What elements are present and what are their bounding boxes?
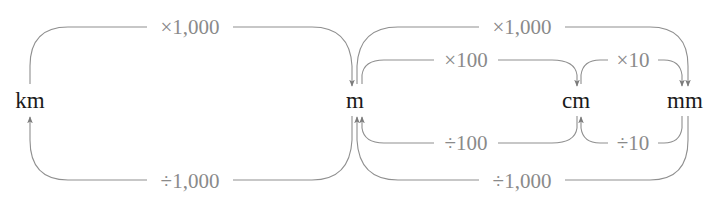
label-mm-to-cm: ÷10 [617,131,650,155]
edge-m-to-cm: ×100 [362,48,577,86]
label-km-to-m: ×1,000 [160,15,219,39]
unit-km: km [15,88,45,113]
unit-conversion-diagram: ×1,000 ÷1,000 ×1,000 ×100 ×10 ÷100 ÷10 [0,0,713,200]
label-cm-to-m: ÷100 [444,131,487,155]
label-mm-to-m: ÷1,000 [493,169,552,193]
edge-m-to-km: ÷1,000 [30,116,352,193]
edge-cm-to-m: ÷100 [362,116,577,155]
label-m-to-cm: ×100 [444,48,487,72]
label-cm-to-mm: ×10 [617,48,650,72]
edge-cm-to-mm: ×10 [581,48,682,86]
label-m-to-km: ÷1,000 [161,169,220,193]
label-m-to-mm: ×1,000 [492,15,551,39]
unit-m: m [346,88,364,113]
unit-mm: mm [667,88,703,113]
edge-mm-to-cm: ÷10 [581,116,682,155]
edge-km-to-m: ×1,000 [30,15,352,86]
unit-cm: cm [562,88,590,113]
